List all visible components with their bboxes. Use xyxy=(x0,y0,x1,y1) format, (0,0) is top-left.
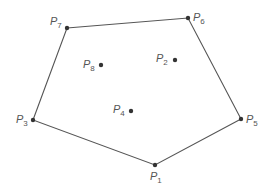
point-label-p7: P7 xyxy=(50,16,62,30)
point-label-p8: P8 xyxy=(83,59,95,73)
point-label-p6: P6 xyxy=(193,12,205,26)
point-marker-p5 xyxy=(239,117,243,121)
hull-canvas xyxy=(0,0,270,189)
point-label-p2: P2 xyxy=(156,53,168,67)
point-marker-p8 xyxy=(99,63,103,67)
point-marker-p3 xyxy=(31,118,35,122)
point-index: 4 xyxy=(120,109,124,118)
point-index: 8 xyxy=(90,64,94,73)
point-label-p1: P1 xyxy=(150,171,162,185)
point-marker-p4 xyxy=(129,109,133,113)
convex-hull-diagram: P1P2P3P4P5P6P7P8 xyxy=(0,0,270,189)
point-label-p4: P4 xyxy=(113,104,125,118)
point-label-p3: P3 xyxy=(16,114,28,128)
convex-hull-polygon xyxy=(33,18,241,165)
point-marker-p2 xyxy=(173,58,177,62)
point-marker-p1 xyxy=(153,163,157,167)
point-index: 3 xyxy=(23,119,27,128)
point-index: 2 xyxy=(163,58,167,67)
point-index: 5 xyxy=(253,119,257,128)
point-marker-p6 xyxy=(186,16,190,20)
point-index: 6 xyxy=(200,17,204,26)
point-label-p5: P5 xyxy=(246,114,258,128)
point-index: 1 xyxy=(157,176,161,185)
point-index: 7 xyxy=(57,21,61,30)
point-marker-p7 xyxy=(65,26,69,30)
